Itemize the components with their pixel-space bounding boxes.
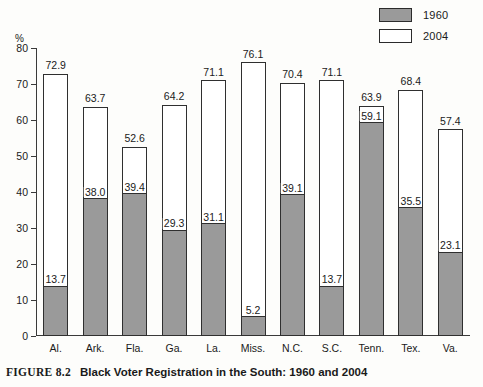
bar-value-label-2004: 70.4 bbox=[282, 69, 302, 80]
bar-value-label-1960: 39.4 bbox=[123, 182, 145, 193]
bar-2004 bbox=[43, 74, 68, 336]
x-axis-tick-label: N.C. bbox=[282, 342, 303, 354]
bar-value-label-1960: 35.5 bbox=[400, 196, 422, 207]
bar-value-label-1960: 5.2 bbox=[245, 305, 262, 316]
legend-item-2004: 2004 bbox=[379, 27, 479, 44]
legend-label-2004: 2004 bbox=[423, 30, 448, 42]
bar-group: 68.435.5Tex. bbox=[398, 48, 423, 336]
x-axis-tick-label: Tex. bbox=[401, 342, 420, 354]
y-axis-tick-label: 40 bbox=[16, 187, 28, 198]
bar-value-label-1960: 59.1 bbox=[360, 111, 382, 122]
x-axis-tick-label: S.C. bbox=[322, 342, 342, 354]
bar-2004 bbox=[438, 129, 463, 336]
bar-group: 71.113.7S.C. bbox=[319, 48, 344, 336]
y-axis-tick-label: 0 bbox=[22, 331, 28, 342]
bar-2004 bbox=[122, 147, 147, 336]
figure-caption-text: Black Voter Registration in the South: 1… bbox=[80, 366, 367, 378]
bar-value-label-1960: 38.0 bbox=[84, 187, 106, 198]
y-axis-tick-label: 30 bbox=[16, 223, 28, 234]
bar-1960 bbox=[399, 207, 422, 335]
white-swatch-icon bbox=[379, 29, 412, 43]
y-axis-tick-label: 10 bbox=[16, 295, 28, 306]
bar-2004 bbox=[83, 107, 108, 336]
bar-value-label-2004: 68.4 bbox=[401, 76, 421, 87]
bar-1960 bbox=[44, 286, 67, 335]
bar-2004 bbox=[398, 90, 423, 336]
bar-group: 71.131.1La. bbox=[201, 48, 226, 336]
y-axis-tick-label: 70 bbox=[16, 79, 28, 90]
bar-value-label-2004: 52.6 bbox=[124, 133, 144, 144]
bar-value-label-2004: 63.9 bbox=[361, 92, 381, 103]
bar-value-label-2004: 63.7 bbox=[85, 93, 105, 104]
bar-1960 bbox=[123, 193, 146, 335]
x-axis-tick-label: Fla. bbox=[126, 342, 144, 354]
bar-2004 bbox=[241, 62, 266, 336]
y-axis-tick-label: 80 bbox=[16, 43, 28, 54]
bar-value-label-1960: 13.7 bbox=[45, 274, 67, 285]
bar-group: 64.229.3Ga. bbox=[162, 48, 187, 336]
bar-value-label-2004: 57.4 bbox=[440, 116, 460, 127]
x-axis-tick-label: Miss. bbox=[241, 342, 266, 354]
bar-series-group: 72.913.7Al.63.738.0Ark.52.639.4Fla.64.22… bbox=[36, 48, 470, 336]
bar-group: 52.639.4Fla. bbox=[122, 48, 147, 336]
legend-label-1960: 1960 bbox=[423, 9, 448, 21]
bar-value-label-2004: 71.1 bbox=[203, 67, 223, 78]
bar-1960 bbox=[360, 122, 383, 335]
bar-value-label-2004: 76.1 bbox=[243, 49, 263, 60]
bar-group: 76.15.2Miss. bbox=[241, 48, 266, 336]
bar-2004 bbox=[359, 106, 384, 336]
figure-number: FIGURE 8.2 bbox=[6, 366, 71, 378]
bar-2004 bbox=[201, 80, 226, 336]
figure-container: 1960 2004 % 01020304050607080 72.913.7Al… bbox=[0, 0, 483, 387]
bar-2004 bbox=[280, 83, 305, 336]
y-axis-tick-label: 60 bbox=[16, 115, 28, 126]
bar-1960 bbox=[242, 316, 265, 335]
gray-swatch-icon bbox=[379, 8, 412, 22]
bar-group: 70.439.1N.C. bbox=[280, 48, 305, 336]
bar-value-label-1960: 39.1 bbox=[281, 183, 303, 194]
bar-1960 bbox=[163, 230, 186, 335]
x-axis-tick-label: Ga. bbox=[166, 342, 183, 354]
y-axis-tick bbox=[31, 336, 36, 337]
bar-value-label-2004: 64.2 bbox=[164, 91, 184, 102]
bar-1960 bbox=[439, 252, 462, 335]
figure-caption: FIGURE 8.2Black Voter Registration in th… bbox=[6, 366, 367, 378]
bar-group: 63.738.0Ark. bbox=[83, 48, 108, 336]
y-axis-tick-label: 20 bbox=[16, 259, 28, 270]
x-axis-tick-label: Tenn. bbox=[359, 342, 385, 354]
bar-2004 bbox=[319, 80, 344, 336]
x-axis-tick-label: Va. bbox=[443, 342, 458, 354]
chart-legend: 1960 2004 bbox=[379, 6, 479, 48]
x-axis-tick-label: Ark. bbox=[86, 342, 105, 354]
bar-value-label-2004: 71.1 bbox=[322, 67, 342, 78]
y-axis-tick-label: 50 bbox=[16, 151, 28, 162]
bar-1960 bbox=[84, 198, 107, 335]
x-axis-tick-label: Al. bbox=[50, 342, 62, 354]
x-axis-tick-label: La. bbox=[206, 342, 221, 354]
bar-1960 bbox=[202, 223, 225, 335]
bar-group: 72.913.7Al. bbox=[43, 48, 68, 336]
bar-1960 bbox=[320, 286, 343, 335]
plot-area: 01020304050607080 72.913.7Al.63.738.0Ark… bbox=[36, 48, 470, 336]
bar-value-label-1960: 31.1 bbox=[202, 212, 224, 223]
legend-item-1960: 1960 bbox=[379, 6, 479, 23]
bar-value-label-1960: 29.3 bbox=[163, 218, 185, 229]
bar-group: 63.959.1Tenn. bbox=[359, 48, 384, 336]
bar-value-label-1960: 13.7 bbox=[321, 274, 343, 285]
bar-value-label-1960: 23.1 bbox=[439, 240, 461, 251]
bar-group: 57.423.1Va. bbox=[438, 48, 463, 336]
bar-1960 bbox=[281, 194, 304, 335]
bar-value-label-2004: 72.9 bbox=[46, 60, 66, 71]
